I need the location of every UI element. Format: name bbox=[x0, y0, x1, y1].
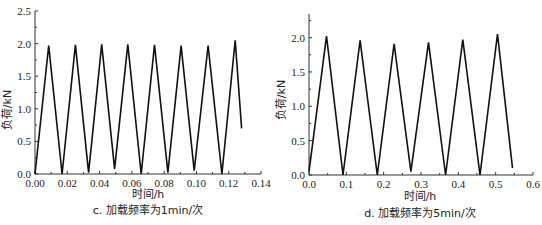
y-tick-label: 1.5 bbox=[291, 66, 305, 78]
y-tick-label: 0.0 bbox=[291, 169, 305, 181]
y-axis-title: 负荷/kN bbox=[274, 80, 288, 120]
y-tick-label: 0.0 bbox=[17, 168, 31, 180]
x-axis-title: 时间/h bbox=[404, 190, 437, 203]
x-tick-label: 0.04 bbox=[90, 177, 110, 189]
chart-d-load-5min: 0.00.10.20.30.40.50.60.00.51.01.52.0时间/h… bbox=[274, 14, 540, 220]
x-tick-label: 0.2 bbox=[377, 178, 391, 190]
y-tick-label: 1.0 bbox=[17, 103, 31, 115]
chart-c-load-1min: 0.000.020.040.060.080.100.120.140.00.51.… bbox=[0, 5, 271, 217]
chart-caption: d. 加载频率为5min/次 bbox=[364, 206, 475, 220]
x-tick-label: 0.6 bbox=[526, 178, 540, 190]
x-tick-label: 0.14 bbox=[251, 177, 271, 189]
x-tick-label: 0.1 bbox=[339, 178, 353, 190]
x-tick-label: 0.02 bbox=[58, 177, 77, 189]
x-tick-label: 0.4 bbox=[451, 178, 465, 190]
y-tick-label: 2.0 bbox=[291, 32, 305, 44]
x-axis-title: 时间/h bbox=[132, 188, 165, 201]
y-tick-label: 1.0 bbox=[291, 100, 305, 112]
y-tick-label: 2.0 bbox=[17, 38, 31, 50]
charts-figure: 0.000.020.040.060.080.100.120.140.00.51.… bbox=[0, 0, 542, 225]
x-tick-label: 0.10 bbox=[187, 177, 207, 189]
y-tick-label: 2.5 bbox=[17, 5, 31, 17]
x-tick-label: 0.3 bbox=[414, 178, 428, 190]
chart-caption: c. 加载频率为1min/次 bbox=[93, 203, 204, 217]
x-tick-label: 0.12 bbox=[219, 177, 238, 189]
load-series-line bbox=[309, 34, 513, 175]
y-tick-label: 0.5 bbox=[17, 135, 31, 147]
y-tick-label: 0.5 bbox=[291, 135, 305, 147]
load-series-line bbox=[35, 40, 242, 174]
y-axis-title: 负荷/kN bbox=[0, 90, 14, 130]
y-tick-label: 1.5 bbox=[17, 70, 31, 82]
x-tick-label: 0.5 bbox=[489, 178, 503, 190]
